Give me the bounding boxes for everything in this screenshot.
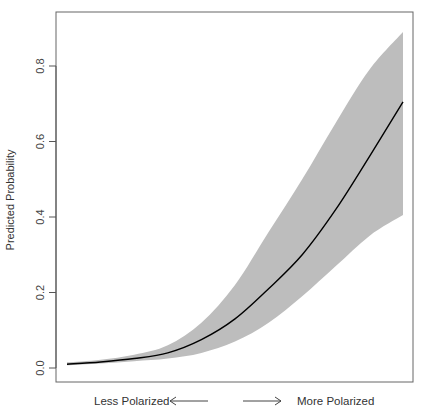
less-polarized-label: Less Polarized: [94, 395, 169, 407]
arrow-right-icon: [243, 397, 281, 405]
y-tick-label: 0.0: [34, 360, 46, 375]
y-tick-label: 0.6: [34, 134, 46, 149]
more-polarized-label: More Polarized: [297, 395, 374, 407]
y-axis: 0.00.20.40.60.8: [34, 58, 56, 375]
chart: 0.00.20.40.60.8 Predicted Probability Le…: [0, 0, 424, 414]
y-axis-label: Predicted Probability: [4, 149, 16, 250]
y-tick-label: 0.2: [34, 285, 46, 300]
y-tick-label: 0.8: [34, 58, 46, 73]
arrow-left-icon: [170, 397, 208, 405]
y-tick-label: 0.4: [34, 209, 46, 224]
confidence-band: [67, 32, 403, 365]
x-annotation-left: Less Polarized: [94, 395, 208, 407]
x-annotation-right: More Polarized: [243, 395, 374, 407]
